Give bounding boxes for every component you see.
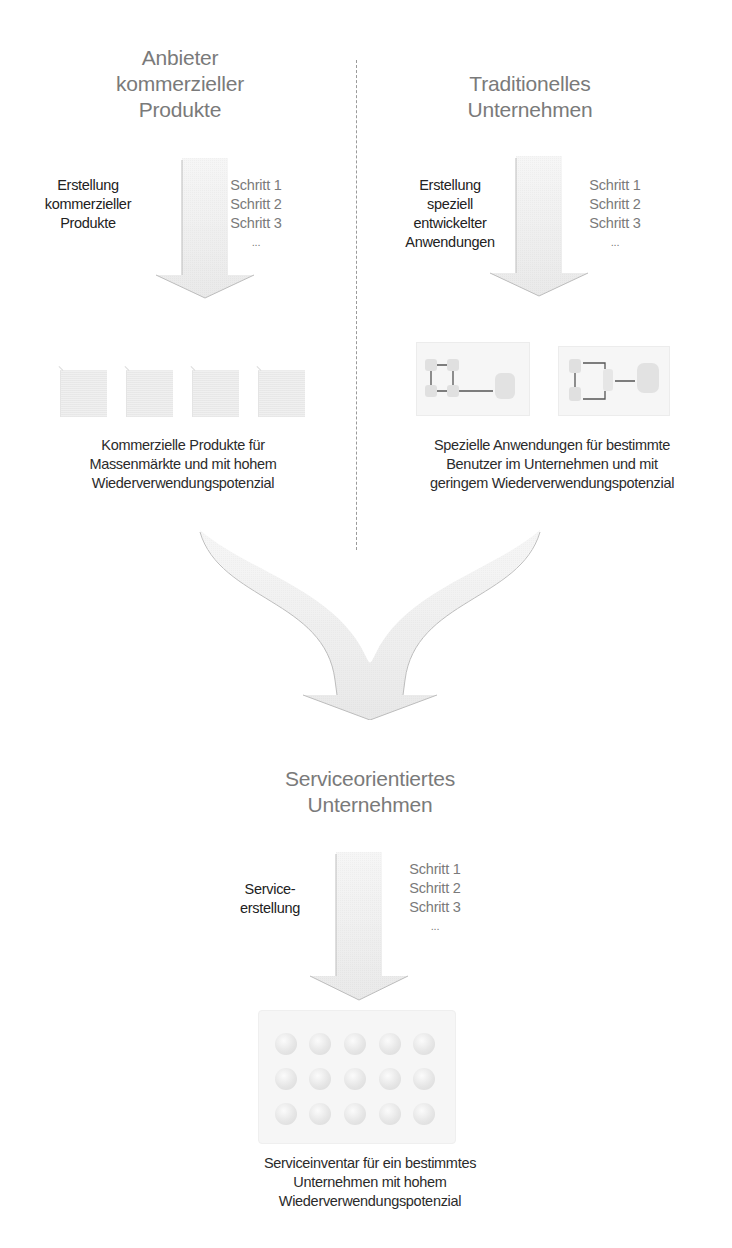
- service-ball-icon: [344, 1033, 366, 1055]
- bottom-caption: Serviceinventar für ein bestimmtes Unter…: [210, 1154, 530, 1211]
- left-caption-line: Massenmärkte und mit hohem: [30, 455, 336, 474]
- left-process-label-line: Produkte: [28, 214, 148, 233]
- service-ball-icon: [275, 1068, 297, 1090]
- right-heading: Traditionelles Unternehmen: [430, 71, 630, 123]
- service-ball-icon: [413, 1068, 435, 1090]
- step-item: Schritt 3: [574, 214, 656, 233]
- step-item: Schritt 3: [215, 214, 297, 233]
- bottom-caption-line: Serviceinventar für ein bestimmtes: [210, 1154, 530, 1173]
- step-item: Schritt 1: [215, 176, 297, 195]
- service-ball-icon: [275, 1033, 297, 1055]
- service-ball-icon: [275, 1103, 297, 1125]
- left-steps-list: Schritt 1 Schritt 2 Schritt 3 ...: [215, 176, 297, 252]
- bottom-heading-line: Serviceorientiertes: [250, 766, 490, 792]
- right-steps-list: Schritt 1 Schritt 2 Schritt 3 ...: [574, 176, 656, 252]
- application-diagram-icon: [416, 342, 530, 416]
- right-heading-line: Traditionelles: [430, 71, 630, 97]
- step-item: ...: [394, 917, 476, 936]
- bottom-heading: Serviceorientiertes Unternehmen: [250, 766, 490, 818]
- left-process-label: Erstellung kommerzieller Produkte: [28, 176, 148, 233]
- product-box-icon: [60, 370, 107, 417]
- service-ball-icon: [379, 1068, 401, 1090]
- step-item: Schritt 3: [394, 898, 476, 917]
- product-box-icon: [192, 370, 239, 417]
- left-caption: Kommerzielle Produkte für Massenmärkte u…: [30, 436, 336, 493]
- left-heading: Anbieter kommerzieller Produkte: [80, 45, 280, 123]
- step-item: Schritt 2: [574, 195, 656, 214]
- service-ball-icon: [344, 1103, 366, 1125]
- service-ball-icon: [309, 1068, 331, 1090]
- column-divider: [356, 60, 357, 550]
- step-item: Schritt 1: [574, 176, 656, 195]
- service-ball-icon: [344, 1068, 366, 1090]
- right-heading-line: Unternehmen: [430, 97, 630, 123]
- right-caption-line: geringem Wiederverwendungspotenzial: [384, 474, 720, 493]
- bottom-caption-line: Unternehmen mit hohem: [210, 1173, 530, 1192]
- left-caption-line: Wiederverwendungspotenzial: [30, 474, 336, 493]
- step-item: ...: [215, 233, 297, 252]
- step-item: ...: [574, 233, 656, 252]
- service-ball-icon: [379, 1033, 401, 1055]
- service-ball-icon: [309, 1103, 331, 1125]
- right-caption: Spezielle Anwendungen für bestimmte Benu…: [384, 436, 720, 493]
- step-item: Schritt 2: [215, 195, 297, 214]
- bottom-steps-list: Schritt 1 Schritt 2 Schritt 3 ...: [394, 860, 476, 936]
- service-ball-icon: [309, 1033, 331, 1055]
- step-item: Schritt 1: [394, 860, 476, 879]
- right-caption-line: Benutzer im Unternehmen und mit: [384, 455, 720, 474]
- left-process-label-line: kommerzieller: [28, 195, 148, 214]
- right-caption-line: Spezielle Anwendungen für bestimmte: [384, 436, 720, 455]
- left-heading-line: kommerzieller: [80, 71, 280, 97]
- bottom-heading-line: Unternehmen: [250, 792, 490, 818]
- merge-arrow-icon: [195, 530, 545, 720]
- service-ball-icon: [413, 1103, 435, 1125]
- service-ball-icon: [379, 1103, 401, 1125]
- product-box-icon: [258, 370, 305, 417]
- service-ball-icon: [413, 1033, 435, 1055]
- left-heading-line: Produkte: [80, 97, 280, 123]
- left-process-label-line: Erstellung: [28, 176, 148, 195]
- step-item: Schritt 2: [394, 879, 476, 898]
- product-box-icon: [126, 370, 173, 417]
- left-caption-line: Kommerzielle Produkte für: [30, 436, 336, 455]
- application-diagram-icon: [558, 346, 670, 416]
- bottom-caption-line: Wiederverwendungspotenzial: [210, 1192, 530, 1211]
- left-heading-line: Anbieter: [80, 45, 280, 71]
- service-inventory-panel: [258, 1010, 456, 1144]
